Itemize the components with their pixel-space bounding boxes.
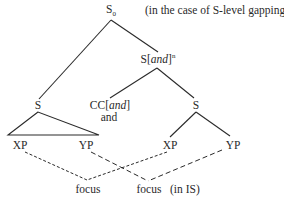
dash-left-yp-focus xyxy=(91,152,148,181)
focus-right: focus xyxy=(137,183,162,195)
edge-root-left-s xyxy=(39,20,111,99)
edge-conj-right-s xyxy=(157,68,194,98)
edge-right-s-xp xyxy=(170,112,196,137)
node-conj-phrase: S[and]n xyxy=(141,53,176,65)
left-s-triangle xyxy=(8,112,99,135)
dash-right-yp-focus xyxy=(148,150,222,181)
edge-root-conj xyxy=(111,20,158,52)
gapping-note: (in the case of S-level gapping) xyxy=(145,4,284,16)
dash-left-xp-focus xyxy=(25,152,87,180)
node-cc: CC[and] xyxy=(90,99,130,111)
focus-right-note: (in IS) xyxy=(170,183,200,195)
focus-left: focus xyxy=(76,183,101,195)
tree-edges xyxy=(0,0,284,201)
node-cc-word: and xyxy=(101,111,118,123)
node-right-yp: YP xyxy=(226,139,241,151)
edge-conj-cc xyxy=(110,68,157,98)
node-root: S0 xyxy=(106,3,116,15)
node-left-yp: YP xyxy=(79,139,94,151)
edge-right-s-yp xyxy=(196,112,230,136)
node-right-xp: XP xyxy=(163,139,178,151)
node-left-s: S xyxy=(35,99,41,111)
node-left-xp: XP xyxy=(13,139,28,151)
node-right-s: S xyxy=(193,99,199,111)
